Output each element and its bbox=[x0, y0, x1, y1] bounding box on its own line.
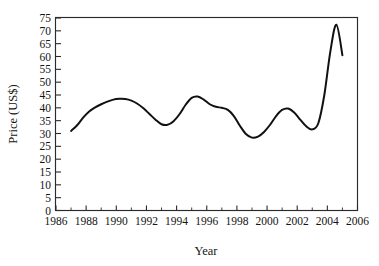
y-axis-title: Price (US$) bbox=[6, 84, 20, 143]
x-tick-label: 2006 bbox=[346, 215, 369, 227]
line-chart: 051015202530354045505560657075 198619881… bbox=[0, 0, 379, 266]
y-tick-label: 45 bbox=[40, 89, 52, 101]
x-tick-label: 2004 bbox=[316, 215, 339, 227]
y-tick-label: 30 bbox=[40, 128, 52, 140]
x-tick-label: 2002 bbox=[286, 215, 309, 227]
y-tick-label: 40 bbox=[40, 102, 52, 114]
chart-figure: 051015202530354045505560657075 198619881… bbox=[0, 0, 379, 266]
y-tick-label: 65 bbox=[40, 38, 52, 50]
x-tick-label: 1988 bbox=[75, 215, 98, 227]
x-axis-title: Year bbox=[194, 244, 218, 258]
y-tick-label: 10 bbox=[40, 179, 52, 191]
x-tick-label: 2000 bbox=[256, 215, 279, 227]
y-tick-label: 35 bbox=[40, 115, 52, 127]
x-tick-label: 1994 bbox=[165, 215, 188, 227]
y-tick-label: 70 bbox=[40, 25, 52, 37]
y-tick-label: 5 bbox=[45, 192, 51, 204]
x-tick-label: 1986 bbox=[45, 215, 68, 227]
y-tick-label: 50 bbox=[40, 76, 52, 88]
y-tick-label: 75 bbox=[40, 12, 52, 24]
y-axis-tick-labels: 051015202530354045505560657075 bbox=[40, 12, 52, 217]
x-tick-label: 1992 bbox=[135, 215, 158, 227]
x-tick-label: 1996 bbox=[195, 215, 218, 227]
y-tick-label: 25 bbox=[40, 140, 52, 152]
y-tick-label: 15 bbox=[40, 166, 52, 178]
y-tick-label: 60 bbox=[40, 51, 52, 63]
y-tick-label: 55 bbox=[40, 63, 52, 75]
x-tick-label: 1990 bbox=[105, 215, 128, 227]
x-tick-label: 1998 bbox=[225, 215, 248, 227]
x-axis-tick-labels: 1986198819901992199419961998200020022004… bbox=[45, 215, 370, 227]
y-tick-label: 20 bbox=[40, 153, 52, 165]
